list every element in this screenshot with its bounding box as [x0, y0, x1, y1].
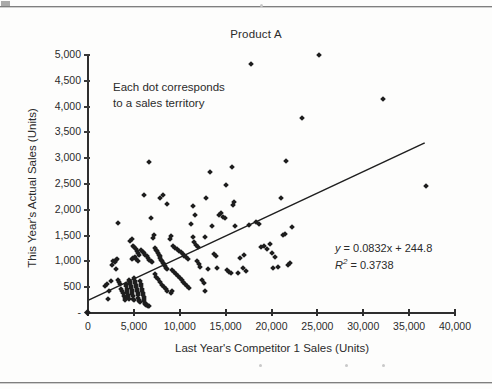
x-tick — [454, 309, 456, 316]
annotation-equation: y = 0.0832x + 244.8 R2 = 0.3738 — [335, 241, 432, 272]
scatter-plot: 05,00010,00015,00020,00025,00030,00035,0… — [0, 0, 492, 389]
y-axis-tick-labels: -5001,0001,5002,0002,5003,0003,5004,0004… — [33, 0, 81, 389]
r-squared-text: R2 = 0.3738 — [335, 255, 432, 272]
y-tick — [84, 80, 90, 82]
r2-body: = 0.3738 — [347, 259, 393, 271]
y-tick-label: 4,000 — [35, 100, 81, 112]
scanned-page: Product A 05,00010,00015,00020,00025,000… — [0, 0, 492, 389]
y-tick-label: 3,500 — [35, 125, 81, 137]
y-tick-label: 1,000 — [35, 254, 81, 266]
y-axis-title: This Year's Actual Sales (Units) — [26, 63, 38, 313]
y-tick — [84, 260, 90, 262]
y-tick — [84, 157, 90, 159]
y-tick — [84, 183, 90, 185]
y-tick — [84, 131, 90, 133]
y-tick — [84, 54, 90, 56]
y-tick-label: 2,500 — [35, 177, 81, 189]
x-tick-label: 40,000 — [427, 320, 483, 332]
x-tick — [225, 309, 227, 316]
y-tick-label: 2,000 — [35, 203, 81, 215]
y-tick — [84, 235, 90, 237]
x-tick — [271, 309, 273, 316]
equation-body: = 0.0832x + 244.8 — [341, 242, 433, 254]
x-axis-title: Last Year's Competitor 1 Sales (Units) — [88, 342, 456, 354]
y-tick — [84, 209, 90, 211]
y-tick-label: 5,000 — [35, 48, 81, 60]
y-tick-label: 1,500 — [35, 229, 81, 241]
x-tick — [179, 309, 181, 316]
y-tick-label: 500 — [35, 280, 81, 292]
annotation-note: Each dot corresponds to a sales territor… — [113, 79, 225, 111]
x-tick — [408, 309, 410, 316]
x-tick — [133, 309, 135, 316]
y-tick-label: - — [35, 306, 81, 318]
y-tick — [84, 106, 90, 108]
y-tick — [84, 286, 90, 288]
y-tick-label: 3,000 — [35, 151, 81, 163]
x-tick — [316, 309, 318, 316]
y-tick-label: 4,500 — [35, 74, 81, 86]
x-tick — [362, 309, 364, 316]
regression-equation-text: y = 0.0832x + 244.8 — [335, 241, 432, 255]
